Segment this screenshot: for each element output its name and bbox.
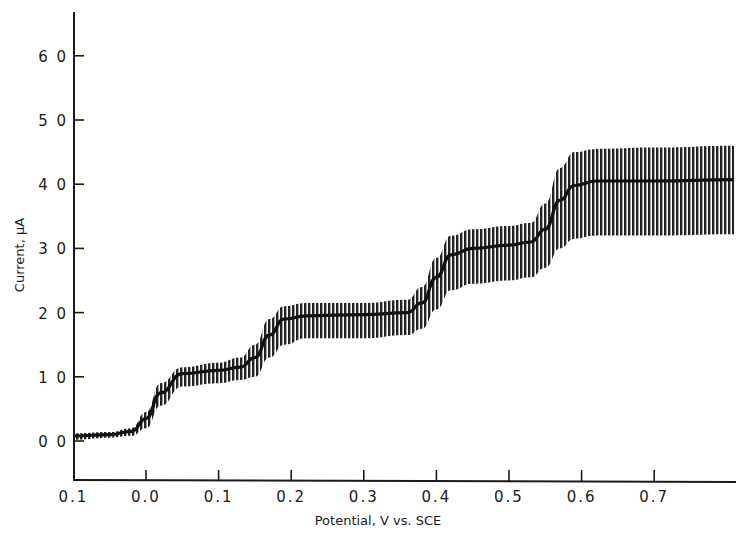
x-tick-label: 0.0 [131, 488, 161, 506]
x-tick-label: 0.6 [567, 488, 597, 506]
y-axis-title: Current, μA [12, 218, 27, 292]
plot-area [73, 146, 734, 440]
current-oscillation-band [73, 146, 734, 440]
x-tick-label: 0.3 [349, 488, 379, 506]
y-tick-label: 3 0 [38, 240, 68, 258]
x-axis-line [73, 480, 736, 482]
y-tick-label: 5 0 [38, 112, 68, 130]
x-tick-label: 0.1 [58, 488, 88, 506]
x-tick-label: 0.4 [421, 488, 451, 506]
y-tick-label: 6 0 [38, 48, 68, 66]
polarogram-chart: 0 01 02 03 04 05 06 0 0.10.00.10.20.30.4… [0, 0, 744, 542]
y-tick-label: 0 0 [38, 433, 68, 451]
y-tick-label: 4 0 [38, 176, 68, 194]
y-tick-label: 1 0 [38, 369, 68, 387]
y-tick-label: 2 0 [38, 305, 68, 323]
x-tick-label: 0.1 [204, 488, 234, 506]
y-axis-ticks: 0 01 02 03 04 05 06 0 [38, 48, 84, 451]
x-tick-label: 0.2 [276, 488, 306, 506]
x-tick-label: 0.5 [494, 488, 524, 506]
x-axis-ticks: 0.10.00.10.20.30.40.50.60.7 [58, 470, 669, 506]
x-tick-label: 0.7 [639, 488, 669, 506]
x-axis-title: Potential, V vs. SCE [315, 513, 442, 528]
